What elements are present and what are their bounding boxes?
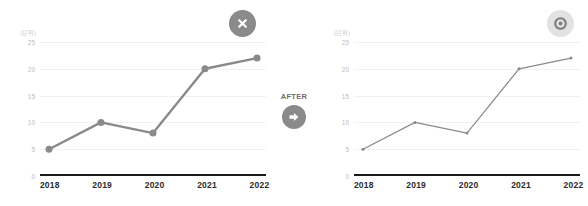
- grid-before: [40, 42, 266, 176]
- x-tick: 2019: [406, 180, 426, 190]
- circle-o-icon: [553, 16, 568, 31]
- data-point: [362, 148, 365, 151]
- arrow-right-button[interactable]: [282, 105, 306, 129]
- y-tick: 10: [28, 119, 35, 126]
- data-point: [46, 146, 53, 153]
- close-x-icon: [236, 17, 249, 30]
- data-point: [570, 57, 573, 60]
- y-tick: 15: [28, 92, 35, 99]
- x-axis-before: 2018 2019 2020 2021 2022: [40, 180, 272, 196]
- status-badge-correct[interactable]: [547, 10, 574, 37]
- y-tick: 0: [345, 173, 349, 180]
- y-tick: 25: [28, 39, 35, 46]
- data-point: [150, 130, 157, 137]
- transition-label: AFTER: [272, 92, 316, 101]
- x-axis-line-before: [40, 174, 266, 176]
- x-tick: 2020: [145, 180, 165, 190]
- y-axis-before: 25 20 15 10 5 0: [20, 42, 38, 176]
- y-tick: 20: [28, 65, 35, 72]
- y-axis-after: 25 20 15 10 5 0: [334, 42, 352, 176]
- y-axis-unit-label-after: (단위): [334, 28, 350, 37]
- x-tick: 2018: [354, 180, 374, 190]
- y-tick: 5: [345, 146, 349, 153]
- y-tick: 5: [31, 146, 35, 153]
- x-tick: 2022: [564, 180, 584, 190]
- y-tick: 25: [342, 39, 349, 46]
- y-tick: 0: [31, 173, 35, 180]
- chart-panel-before: (단위) 25 20 15 10 5 0: [6, 0, 274, 206]
- y-tick: 10: [342, 119, 349, 126]
- x-axis-line-after: [354, 174, 580, 176]
- x-tick: 2020: [459, 180, 479, 190]
- x-tick: 2022: [250, 180, 270, 190]
- transition-marker: AFTER: [272, 92, 316, 129]
- data-point: [466, 132, 469, 135]
- y-tick: 20: [342, 65, 349, 72]
- line-series-before: [40, 42, 266, 176]
- x-tick: 2021: [197, 180, 217, 190]
- plot-area-before: 25 20 15 10 5 0: [20, 42, 266, 176]
- chart-panel-after: (단위) 25 20 15 10 5 0: [320, 0, 588, 206]
- x-tick: 2019: [92, 180, 112, 190]
- line-series-after: [354, 42, 580, 176]
- arrow-right-icon: [288, 111, 300, 123]
- status-badge-incorrect[interactable]: [229, 10, 256, 37]
- data-point: [202, 65, 209, 72]
- x-tick: 2021: [511, 180, 531, 190]
- y-tick: 15: [342, 92, 349, 99]
- plot-area-after: 25 20 15 10 5 0: [334, 42, 580, 176]
- y-axis-unit-label-before: (단위): [20, 28, 36, 37]
- x-tick: 2018: [40, 180, 60, 190]
- x-axis-after: 2018 2019 2020 2021 2022: [354, 180, 586, 196]
- data-point: [414, 121, 417, 124]
- data-point: [254, 55, 261, 62]
- data-point: [518, 67, 521, 70]
- grid-after: [354, 42, 580, 176]
- data-point: [98, 119, 105, 126]
